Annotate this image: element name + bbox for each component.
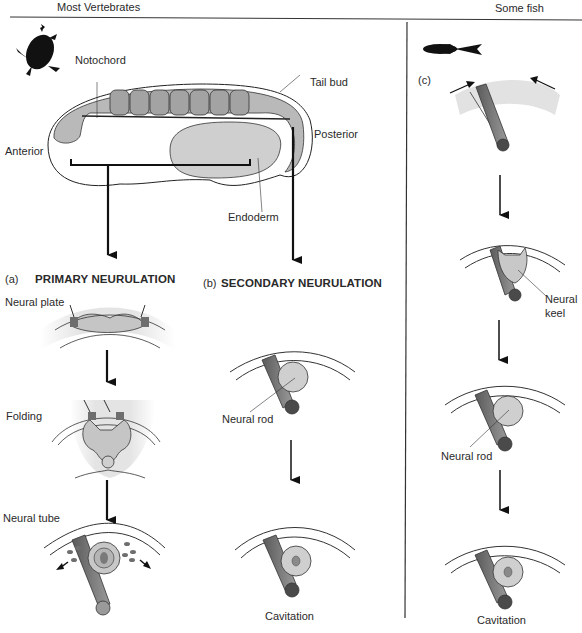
label-neural-tube: Neural tube [3, 512, 60, 524]
secondary-cavitation-diagram [235, 528, 355, 598]
secondary-neural-rod-diagram [230, 352, 355, 414]
folding-diagram [52, 400, 160, 478]
panel-b-title: SECONDARY NEURULATION [221, 277, 382, 289]
fish-silhouette-icon [423, 44, 482, 55]
label-anterior: Anterior [5, 145, 44, 157]
label-neural-keel-line2: keel [545, 307, 565, 319]
label-neural-keel-line1: Neural [545, 293, 577, 305]
somites [110, 90, 249, 115]
panel-b-marker: (b) [203, 277, 216, 289]
header-most-vertebrates: Most Vertebrates [57, 1, 140, 13]
panel-divider [405, 22, 407, 618]
fish-cavitation-diagram [445, 546, 565, 609]
label-neural-plate: Neural plate [5, 296, 64, 308]
label-folding: Folding [6, 410, 42, 422]
header-some-fish: Some fish [495, 2, 544, 14]
panel-c-marker: (c) [418, 74, 431, 86]
label-notochord: Notochord [75, 54, 126, 66]
neural-tube-diagram [44, 523, 165, 615]
label-tail-bud: Tail bud [310, 76, 348, 88]
label-posterior: Posterior [314, 128, 358, 140]
label-neural-rod-b: Neural rod [222, 413, 273, 425]
label-endoderm: Endoderm [228, 211, 279, 223]
label-cavitation-c: Cavitation [477, 614, 526, 626]
panel-a-title: PRIMARY NEURULATION [35, 273, 175, 285]
label-neural-rod-c: Neural rod [441, 450, 492, 462]
fish-initial-diagram [450, 76, 560, 151]
panel-a-marker: (a) [5, 273, 18, 285]
frog-silhouette-icon [16, 24, 60, 76]
neural-plate-diagram [40, 305, 175, 350]
label-cavitation-b: Cavitation [265, 610, 314, 622]
fish-neural-rod-diagram [445, 386, 565, 451]
embryo-diagram [48, 75, 312, 260]
diagram-graphics [0, 0, 582, 633]
header-rule [10, 17, 582, 20]
